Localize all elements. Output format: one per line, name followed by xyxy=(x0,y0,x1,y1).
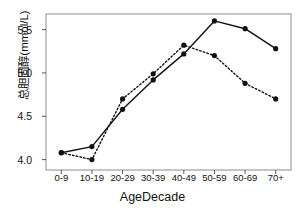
x-tick-label: 10-19 xyxy=(80,172,104,183)
series-line-dashed xyxy=(61,45,275,159)
data-point-marker xyxy=(243,81,248,86)
data-point-marker xyxy=(120,96,125,101)
data-point-marker xyxy=(243,26,248,31)
x-tick-label: 20-29 xyxy=(110,172,134,183)
x-tick-label: 70+ xyxy=(268,172,284,183)
y-tick-marks xyxy=(42,30,46,160)
series-line-solid xyxy=(61,21,275,153)
data-point-marker xyxy=(273,46,278,51)
chart-container: 总胆固醇(mmol/L) 4.0 4.5 5.0 5.5 0-910-1920-… xyxy=(0,0,305,214)
x-tick-label: 60-69 xyxy=(233,172,257,183)
axis-frame xyxy=(46,14,291,170)
data-point-marker xyxy=(59,150,64,155)
data-point-marker xyxy=(212,53,217,58)
x-tick-label: 50-59 xyxy=(202,172,226,183)
data-point-marker xyxy=(151,77,156,82)
data-point-marker xyxy=(181,43,186,48)
x-tick-label: 40-49 xyxy=(172,172,196,183)
data-point-marker xyxy=(181,51,186,56)
x-axis-title: AgeDecade xyxy=(0,190,305,204)
data-point-marker xyxy=(273,96,278,101)
data-point-marker xyxy=(89,157,94,162)
data-series-layer xyxy=(59,18,279,162)
data-point-marker xyxy=(212,18,217,23)
data-point-marker xyxy=(89,144,94,149)
x-tick-label: 0-9 xyxy=(54,172,68,183)
x-tick-label: 30-39 xyxy=(141,172,165,183)
data-point-marker xyxy=(151,71,156,76)
data-point-marker xyxy=(120,107,125,112)
